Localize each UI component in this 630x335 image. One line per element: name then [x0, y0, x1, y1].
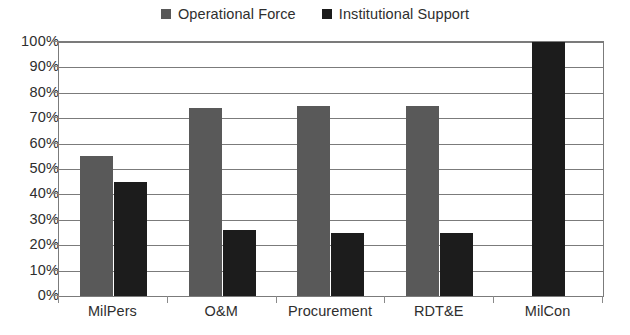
x-axis-tick-label: O&M: [167, 303, 276, 319]
legend-label-institutional-support: Institutional Support: [339, 6, 469, 22]
bar-institutional-support: [331, 233, 364, 297]
bar-group: [385, 42, 494, 296]
x-axis-tick-mark: [384, 296, 385, 303]
bar-chart: Operational Force Institutional Support …: [0, 0, 630, 335]
bar-institutional-support: [114, 182, 147, 296]
plot-area: [58, 41, 604, 297]
bar-operational-force: [406, 106, 439, 297]
legend-square-black-icon: [322, 9, 332, 19]
bar-institutional-support: [532, 42, 565, 296]
x-axis-tick-label: Procurement: [276, 303, 385, 319]
gridline: [59, 296, 603, 297]
x-axis-tick-mark: [58, 296, 59, 303]
x-axis-tick-label: MilPers: [58, 303, 167, 319]
bar-operational-force: [297, 106, 330, 297]
bar-operational-force: [80, 156, 113, 296]
x-axis-tick-label: MilCon: [493, 303, 602, 319]
chart-legend: Operational Force Institutional Support: [0, 6, 630, 22]
legend-entry-operational-force: Operational Force: [161, 6, 296, 22]
legend-entry-institutional-support: Institutional Support: [322, 6, 469, 22]
bars-layer: [59, 42, 603, 296]
bar-institutional-support: [440, 233, 473, 297]
bar-group: [494, 42, 603, 296]
bar-operational-force: [189, 108, 222, 296]
y-axis: 0%10%20%30%40%50%60%70%80%90%100%: [0, 41, 59, 295]
bar-group: [59, 42, 168, 296]
legend-square-gray-icon: [161, 9, 171, 19]
bar-institutional-support: [223, 230, 256, 296]
x-axis-tick-mark: [167, 296, 168, 303]
x-axis-tick-label: RDT&E: [384, 303, 493, 319]
x-axis-tick-mark: [602, 296, 603, 303]
bar-group: [277, 42, 386, 296]
x-axis-tick-mark: [276, 296, 277, 303]
legend-label-operational-force: Operational Force: [178, 6, 296, 22]
x-axis-tick-mark: [493, 296, 494, 303]
bar-group: [168, 42, 277, 296]
